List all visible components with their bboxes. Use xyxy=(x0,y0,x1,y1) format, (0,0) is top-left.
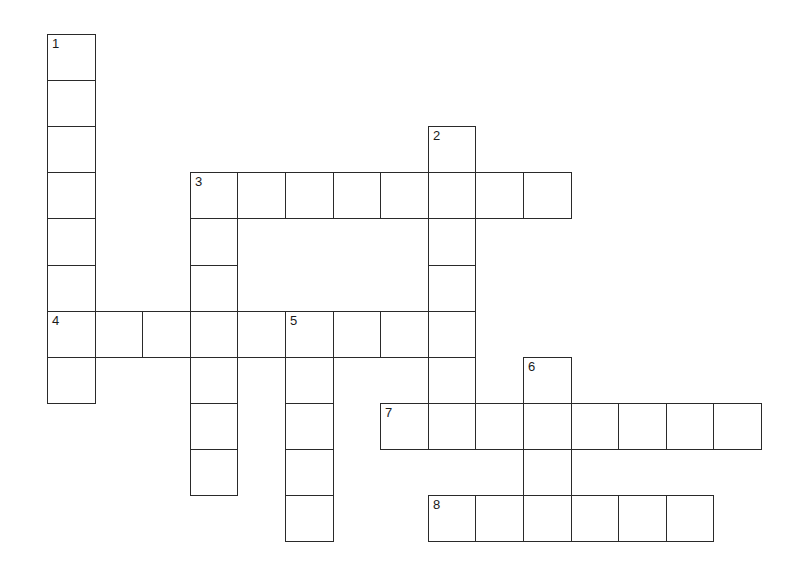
crossword-cell[interactable] xyxy=(285,449,334,496)
crossword-cell[interactable] xyxy=(285,172,334,219)
crossword-cell[interactable]: 2 xyxy=(428,126,476,173)
crossword-cell[interactable]: 3 xyxy=(190,172,238,219)
crossword-cell[interactable] xyxy=(428,403,476,450)
crossword-cell[interactable] xyxy=(428,311,476,358)
crossword-cell[interactable]: 1 xyxy=(47,34,96,81)
clue-number: 4 xyxy=(52,314,59,327)
crossword-cell[interactable]: 8 xyxy=(428,495,476,542)
crossword-cell[interactable] xyxy=(475,172,524,219)
crossword-cell[interactable] xyxy=(523,172,572,219)
clue-number: 3 xyxy=(195,175,202,188)
crossword-cell[interactable] xyxy=(380,172,429,219)
crossword-cell[interactable]: 6 xyxy=(523,357,572,404)
crossword-cell[interactable] xyxy=(95,311,143,358)
crossword-cell[interactable] xyxy=(285,357,334,404)
crossword-cell[interactable] xyxy=(428,357,476,404)
crossword-cell[interactable] xyxy=(523,449,572,496)
clue-number: 2 xyxy=(433,129,440,142)
crossword-cell[interactable] xyxy=(523,403,572,450)
crossword-cell[interactable] xyxy=(190,311,238,358)
crossword-cell[interactable] xyxy=(285,403,334,450)
crossword-cell[interactable]: 4 xyxy=(47,311,96,358)
crossword-cell[interactable] xyxy=(523,495,572,542)
clue-number: 5 xyxy=(290,314,297,327)
clue-number: 7 xyxy=(385,406,392,419)
crossword-cell[interactable] xyxy=(666,403,714,450)
crossword-cell[interactable] xyxy=(47,357,96,404)
clue-number: 6 xyxy=(528,360,535,373)
crossword-cell[interactable] xyxy=(666,495,714,542)
crossword-cell[interactable] xyxy=(237,172,286,219)
crossword-cell[interactable] xyxy=(618,495,667,542)
crossword-cell[interactable] xyxy=(475,495,524,542)
crossword-cell[interactable] xyxy=(47,126,96,173)
crossword-cell[interactable] xyxy=(47,218,96,266)
crossword-cell[interactable] xyxy=(333,311,381,358)
crossword-cell[interactable] xyxy=(428,265,476,312)
crossword-cell[interactable] xyxy=(237,311,286,358)
crossword-cell[interactable] xyxy=(190,265,238,312)
crossword-cell[interactable] xyxy=(190,403,238,450)
crossword-cell[interactable] xyxy=(190,449,238,496)
crossword-cell[interactable] xyxy=(571,495,619,542)
crossword-cell[interactable] xyxy=(475,403,524,450)
crossword-cell[interactable] xyxy=(428,218,476,266)
crossword-cell[interactable] xyxy=(571,403,619,450)
crossword-cell[interactable] xyxy=(142,311,191,358)
crossword-cell[interactable] xyxy=(713,403,762,450)
crossword-cell[interactable]: 5 xyxy=(285,311,334,358)
crossword-cell[interactable] xyxy=(428,172,476,219)
crossword-cell[interactable] xyxy=(47,265,96,312)
crossword-cell[interactable] xyxy=(285,495,334,542)
clue-number: 1 xyxy=(52,37,59,50)
crossword-cell[interactable] xyxy=(190,357,238,404)
crossword-grid: 14235678 xyxy=(0,0,799,576)
crossword-cell[interactable]: 7 xyxy=(380,403,429,450)
clue-number: 8 xyxy=(433,498,440,511)
crossword-cell[interactable] xyxy=(190,218,238,266)
crossword-cell[interactable] xyxy=(380,311,429,358)
crossword-cell[interactable] xyxy=(47,80,96,127)
crossword-cell[interactable] xyxy=(47,172,96,219)
crossword-cell[interactable] xyxy=(618,403,667,450)
crossword-cell[interactable] xyxy=(333,172,381,219)
